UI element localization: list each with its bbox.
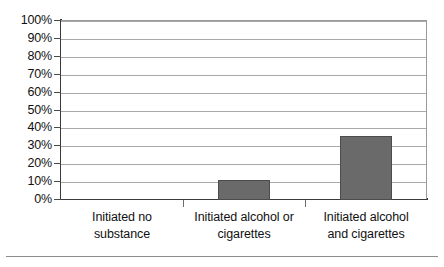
y-tick-mark (54, 110, 61, 111)
y-tick-label: 70% (0, 68, 52, 80)
x-tick-mark (305, 200, 306, 207)
y-tick-label: 20% (0, 157, 52, 169)
y-tick-mark (54, 74, 61, 75)
y-tick-label: 10% (0, 175, 52, 187)
y-tick-label: 30% (0, 139, 52, 151)
bar (218, 180, 269, 200)
y-tick-label: 50% (0, 104, 52, 116)
y-tick-label: 100% (0, 14, 52, 26)
y-tick-mark (54, 163, 61, 164)
bars (61, 21, 426, 199)
y-tick-label: 80% (0, 50, 52, 62)
y-tick-mark (54, 127, 61, 128)
category-label-line: cigarettes (183, 226, 305, 243)
category-label-line: Initiated no (61, 209, 183, 226)
y-tick-mark (54, 145, 61, 146)
category-label-line: substance (61, 226, 183, 243)
category-label-line: and cigarettes (305, 226, 427, 243)
y-tick-mark (54, 181, 61, 182)
y-tick-label: 60% (0, 86, 52, 98)
y-tick-label: 40% (0, 121, 52, 133)
x-axis-category-labels: Initiated nosubstanceInitiated alcohol o… (61, 209, 427, 253)
plot-area (61, 20, 427, 199)
x-axis-category-label: Initiated alcohol orcigarettes (183, 209, 305, 243)
x-axis-category-label: Initiated alcoholand cigarettes (305, 209, 427, 243)
bar (340, 136, 391, 200)
y-tick-mark (54, 38, 61, 39)
y-tick-mark (54, 56, 61, 57)
category-label-line: Initiated alcohol or (183, 209, 305, 226)
y-tick-label: 90% (0, 32, 52, 44)
bar-chart: 0%10%20%30%40%50%60%70%80%90%100% Initia… (0, 0, 444, 267)
x-tick-mark (183, 200, 184, 207)
y-tick-mark (54, 92, 61, 93)
footer-divider (6, 256, 438, 257)
y-tick-label: 0% (0, 193, 52, 205)
y-tick-mark (54, 20, 61, 21)
y-axis-tick-labels: 0%10%20%30%40%50%60%70%80%90%100% (0, 14, 52, 206)
category-label-line: Initiated alcohol (305, 209, 427, 226)
y-tick-mark (54, 199, 61, 200)
x-axis-category-label: Initiated nosubstance (61, 209, 183, 243)
